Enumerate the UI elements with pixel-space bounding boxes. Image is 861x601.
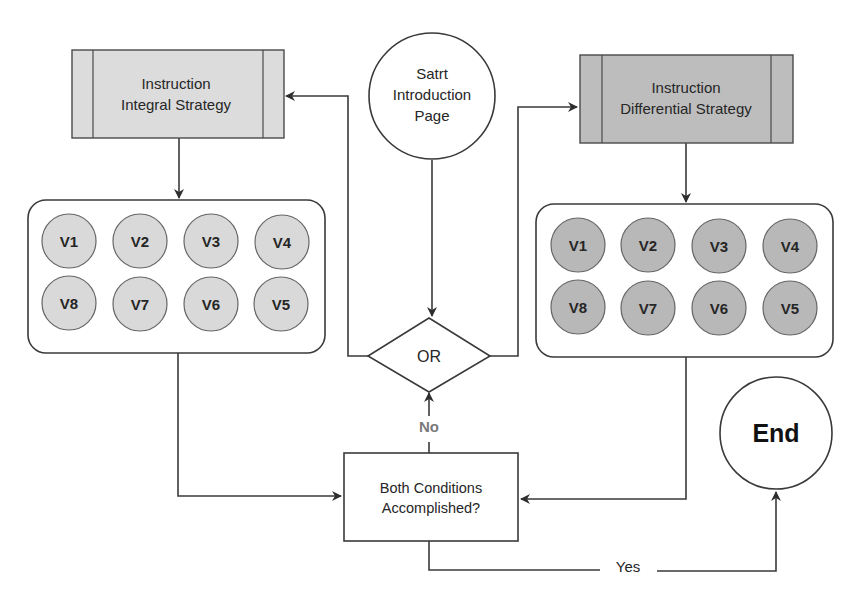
integral-video-v4-label: V4 [273,234,292,251]
differential-video-v3[interactable]: V3 [692,219,746,273]
edge-differential-videos-to-condition [521,357,686,499]
integral-video-v2[interactable]: V2 [113,214,167,268]
integral-video-v2-label: V2 [131,233,149,250]
integral-video-v6[interactable]: V6 [184,277,238,331]
yes-edge-label: Yes [616,558,640,575]
integral-video-v7-label: V7 [131,296,149,313]
differential-video-v7-label: V7 [639,300,657,317]
start-label-line2: Introduction [393,86,471,103]
differential-video-v3-label: V3 [710,238,728,255]
differential-video-v6-label: V6 [710,300,728,317]
differential-video-v8-label: V8 [569,299,587,316]
integral-video-v3-label: V3 [202,233,220,250]
integral-video-v3[interactable]: V3 [184,214,238,268]
differential-video-v8[interactable]: V8 [551,280,605,334]
differential-video-v2-label: V2 [639,237,657,254]
condition-node[interactable]: Both Conditions Accomplished? [344,453,518,541]
or-label: OR [417,348,441,365]
integral-strategy-line1: Instruction [141,75,210,92]
integral-videos-group: V1 V2 V3 V4 V8 V7 V6 V5 [28,200,325,353]
integral-video-v1[interactable]: V1 [42,214,96,268]
no-edge-label: No [419,418,439,435]
end-label: End [752,419,799,447]
differential-video-v4-label: V4 [781,238,800,255]
differential-video-v4[interactable]: V4 [763,219,817,273]
integral-video-v7[interactable]: V7 [113,277,167,331]
start-node[interactable]: Satrt Introduction Page [369,33,495,159]
differential-strategy-line2: Differential Strategy [620,100,752,117]
integral-video-v5[interactable]: V5 [254,277,308,331]
integral-video-v8[interactable]: V8 [42,276,96,330]
differential-strategy-node[interactable]: Instruction Differential Strategy [580,55,793,143]
differential-video-v1-label: V1 [569,237,587,254]
integral-strategy-box [72,50,284,138]
start-label-line1: Satrt [416,65,449,82]
integral-video-v1-label: V1 [60,233,78,250]
integral-video-v8-label: V8 [60,295,78,312]
differential-strategy-box [580,55,793,143]
differential-videos-group: V1 V2 V3 V4 V8 V7 V6 V5 [536,204,833,357]
differential-video-v6[interactable]: V6 [692,281,746,335]
differential-video-v5[interactable]: V5 [763,281,817,335]
differential-video-v2[interactable]: V2 [621,218,675,272]
edge-condition-to-end-yes [429,541,600,570]
differential-video-v7[interactable]: V7 [621,281,675,335]
condition-box [344,453,518,541]
differential-video-v1[interactable]: V1 [551,218,605,272]
integral-video-v5-label: V5 [272,296,290,313]
integral-video-v6-label: V6 [202,296,220,313]
integral-strategy-node[interactable]: Instruction Integral Strategy [72,50,284,138]
edge-condition-to-end-yes-right [657,492,776,571]
condition-label-line2: Accomplished? [382,500,480,516]
differential-video-v5-label: V5 [781,300,799,317]
flowchart-canvas: Satrt Introduction Page Instruction Inte… [0,0,861,601]
integral-strategy-line2: Integral Strategy [121,96,232,113]
or-decision-node[interactable]: OR [368,318,490,392]
integral-video-v4[interactable]: V4 [255,215,309,269]
differential-strategy-line1: Instruction [651,79,720,96]
end-node[interactable]: End [720,377,832,489]
start-label-line3: Page [414,107,449,124]
edge-integral-videos-to-condition [178,353,341,496]
condition-label-line1: Both Conditions [380,480,482,496]
